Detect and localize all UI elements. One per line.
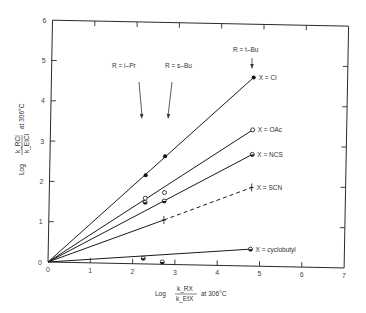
series-label: X = Cl (259, 74, 277, 81)
x-axis-label: Log k_RX k_EtX at 306°C (155, 285, 227, 303)
x-tick-label: 0 (46, 266, 50, 273)
x-label-prefix: Log (155, 290, 166, 298)
series-label: X = SCN (257, 184, 283, 191)
series-line-dashed (164, 187, 252, 220)
open-marker (162, 191, 166, 195)
x-label-suffix: at 306°C (201, 290, 227, 297)
y-tick-label: 6 (43, 17, 47, 24)
arrow-head-icon (167, 114, 171, 119)
y-tick-label: 3 (40, 138, 44, 145)
y-tick-label: 5 (42, 57, 46, 64)
x-tick-label: 1 (88, 267, 92, 274)
y-label-prefix: Log (18, 164, 26, 175)
plot-frame (48, 20, 349, 268)
series-label: X = OAc (258, 126, 283, 133)
x-tick-label: 5 (258, 270, 262, 277)
series-group: X = ClX = OAcX = NCSX = SCNX = cyclobuty… (48, 74, 296, 264)
series-xoac: X = OAc (48, 126, 283, 262)
x-label-numerator: k_RX (177, 285, 194, 293)
y-tick-label: 4 (41, 97, 45, 104)
axis-ticks: 012345670123456 (38, 17, 348, 279)
annotation-arrow (139, 82, 142, 116)
y-tick-label: 2 (40, 178, 44, 185)
annotation-label: R = s–Bu (165, 62, 192, 69)
x-tick-label: 7 (342, 272, 346, 279)
y-tick-label: 1 (39, 218, 43, 225)
arrow-head-icon (250, 64, 254, 69)
annotations: R = i–PrR = s–BuR = t–Bu (112, 46, 259, 119)
filled-marker (252, 75, 256, 79)
x-tick-label: 6 (300, 271, 304, 278)
series-label: X = cyclobutyl (256, 246, 297, 254)
y-label-numerator: k_RCl (14, 135, 22, 153)
series-xncs: X = NCS (48, 151, 283, 262)
annotation-label: R = t–Bu (233, 46, 259, 53)
chart: 012345670123456 X = ClX = OAcX = NCSX = … (0, 0, 366, 313)
y-axis-label: Log k_RCl k_EtCl at 306°C (14, 103, 31, 175)
x-tick-label: 4 (215, 269, 219, 276)
x-tick-label: 2 (131, 268, 135, 275)
series-xscn: X = SCN (48, 183, 282, 262)
x-tick-label: 3 (173, 269, 177, 276)
plot-border (48, 20, 349, 268)
y-tick-label: 0 (38, 259, 42, 266)
y-label-denominator: k_EtCl (23, 133, 31, 153)
filled-marker (163, 154, 167, 158)
series-label: X = NCS (257, 151, 283, 158)
filled-marker (144, 173, 148, 177)
arrow-head-icon (140, 114, 144, 119)
x-label-denominator: k_EtX (176, 295, 194, 303)
chart-svg: 012345670123456 X = ClX = OAcX = NCSX = … (0, 0, 366, 313)
open-marker (143, 196, 147, 200)
series-line (48, 130, 253, 262)
annotation-label: R = i–Pr (112, 62, 136, 69)
series-xcl: X = Cl (48, 74, 277, 262)
open-marker (251, 128, 255, 132)
annotation-arrow (168, 82, 172, 116)
y-label-suffix: at 306°C (18, 103, 25, 129)
